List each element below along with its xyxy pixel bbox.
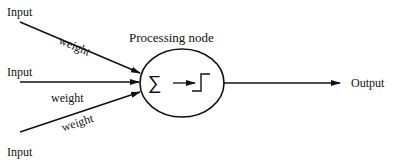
perceptron-diagram: [0, 0, 410, 165]
input-label-2: Input: [7, 66, 32, 78]
output-label: Output: [351, 77, 384, 89]
summation-icon: ∑: [148, 73, 162, 92]
input-label-1: Input: [7, 6, 32, 18]
input-label-3: Input: [7, 146, 32, 158]
weight-label-2: weight: [51, 92, 84, 104]
processing-node-title: Processing node: [129, 32, 214, 44]
